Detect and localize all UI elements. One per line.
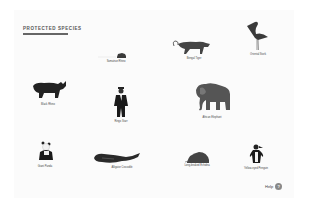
panda-icon — [35, 140, 59, 164]
species-label: Oriental Stork — [250, 53, 266, 56]
stork-icon — [246, 18, 276, 52]
species-label: Sumatran Rhino — [107, 60, 126, 63]
page-title: PROTECTED SPECIES — [23, 26, 82, 31]
species-card-9[interactable]: Yellow-eyed Penguin — [246, 143, 270, 173]
species-label: Bengal Tiger — [187, 57, 202, 60]
help-icon: ? — [275, 183, 282, 190]
tiger-icon — [170, 38, 220, 56]
crocodile-icon — [92, 150, 144, 166]
species-label: Yellow-eyed Penguin — [244, 167, 268, 170]
species-card-8[interactable]: Long-beaked Echidna — [183, 150, 219, 172]
species-card-5[interactable]: African Elephant — [190, 80, 240, 122]
echidna-icon — [183, 150, 219, 164]
rhino-small-icon — [92, 48, 142, 60]
species-label: Alligator Crocodile — [111, 166, 132, 169]
species-card-7[interactable]: Alligator Crocodile — [92, 150, 144, 174]
rhino-icon — [30, 78, 70, 100]
species-card-3[interactable]: Black Rhino — [30, 78, 70, 110]
species-label: African Elephant — [202, 116, 221, 119]
penguin-icon — [246, 143, 270, 165]
human-icon — [108, 86, 136, 118]
species-card-0[interactable]: Sumatran Rhino — [92, 48, 142, 66]
title-underline — [23, 33, 68, 35]
species-label: Ringo Starr — [114, 120, 127, 123]
elephant-icon — [190, 80, 240, 114]
species-label: Black Rhino — [41, 103, 55, 106]
species-card-4[interactable]: Ringo Starr — [108, 86, 136, 126]
help-button[interactable]: Help ? — [265, 183, 282, 190]
species-card-6[interactable]: Giant Panda — [35, 140, 59, 170]
help-label: Help — [265, 184, 273, 189]
species-label: Giant Panda — [38, 165, 52, 168]
species-card-2[interactable]: Oriental Stork — [246, 18, 276, 58]
species-card-1[interactable]: Bengal Tiger — [170, 38, 220, 62]
species-label: Long-beaked Echidna — [184, 164, 209, 167]
